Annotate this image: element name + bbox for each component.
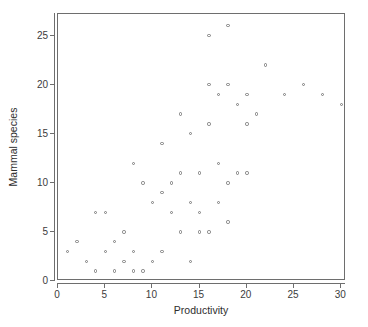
y-tick-mark (50, 133, 54, 134)
x-tick-label: 15 (193, 289, 204, 300)
data-point (132, 162, 135, 165)
data-point (226, 83, 229, 86)
y-tick-label: 10 (37, 176, 48, 187)
data-point (75, 240, 78, 243)
x-tick-mark (199, 284, 200, 288)
data-point (226, 24, 229, 27)
data-point (207, 34, 210, 37)
x-tick-label: 25 (288, 289, 299, 300)
y-tick-label: 20 (37, 78, 48, 89)
x-tick-label: 10 (146, 289, 157, 300)
data-point (207, 122, 210, 125)
x-tick-mark (340, 284, 341, 288)
data-point (122, 260, 125, 263)
data-point (170, 181, 173, 184)
data-point (189, 201, 192, 204)
data-point (226, 220, 229, 223)
data-point (302, 83, 305, 86)
data-point (132, 250, 135, 253)
y-tick-mark (50, 231, 54, 232)
data-point (151, 201, 154, 204)
data-point (255, 112, 258, 115)
x-tick-mark (151, 284, 152, 288)
x-axis-line (57, 283, 345, 284)
data-point (217, 162, 220, 165)
data-point (160, 191, 163, 194)
data-point (189, 132, 192, 135)
x-tick-mark (104, 284, 105, 288)
x-tick-label: 5 (101, 289, 107, 300)
y-tick-mark (50, 35, 54, 36)
y-tick-mark (50, 84, 54, 85)
data-point (104, 211, 107, 214)
data-point (179, 230, 182, 233)
data-point (207, 83, 210, 86)
data-point (94, 269, 97, 272)
y-tick-label: 5 (42, 225, 48, 236)
x-tick-label: 30 (335, 289, 346, 300)
x-tick-label: 0 (54, 289, 60, 300)
y-tick-label: 0 (42, 275, 48, 286)
data-point (217, 93, 220, 96)
data-point (113, 240, 116, 243)
data-point (170, 211, 173, 214)
data-point (66, 250, 69, 253)
y-tick-label: 15 (37, 127, 48, 138)
y-axis-title-text: Mammal species (7, 107, 19, 186)
plot-area-frame (57, 13, 345, 280)
x-tick-mark (293, 284, 294, 288)
data-point (198, 230, 201, 233)
data-point (340, 103, 343, 106)
data-point (160, 250, 163, 253)
data-point (151, 260, 154, 263)
data-point (198, 171, 201, 174)
data-point (245, 93, 248, 96)
x-tick-mark (57, 284, 58, 288)
data-point (132, 269, 135, 272)
data-point (179, 112, 182, 115)
data-point (245, 122, 248, 125)
y-tick-label: 25 (37, 29, 48, 40)
y-axis-line (54, 13, 55, 281)
data-point (226, 181, 229, 184)
data-point (141, 269, 144, 272)
data-point (236, 103, 239, 106)
data-point (141, 181, 144, 184)
scatter-plot-figure: 051015202530 0510152025 Productivity Mam… (0, 0, 368, 327)
data-points-layer (58, 14, 346, 281)
data-point (207, 230, 210, 233)
y-axis-title: Mammal species (6, 13, 20, 280)
data-point (113, 269, 116, 272)
data-point (217, 201, 220, 204)
y-tick-mark (50, 182, 54, 183)
data-point (160, 142, 163, 145)
data-point (198, 211, 201, 214)
data-point (321, 93, 324, 96)
data-point (189, 260, 192, 263)
data-point (236, 171, 239, 174)
x-tick-label: 20 (240, 289, 251, 300)
data-point (245, 171, 248, 174)
x-tick-mark (246, 284, 247, 288)
y-tick-mark (50, 280, 54, 281)
data-point (122, 230, 125, 233)
data-point (85, 260, 88, 263)
data-point (283, 93, 286, 96)
data-point (264, 63, 267, 66)
data-point (94, 211, 97, 214)
data-point (179, 171, 182, 174)
data-point (104, 250, 107, 253)
x-axis-title: Productivity (57, 304, 345, 316)
